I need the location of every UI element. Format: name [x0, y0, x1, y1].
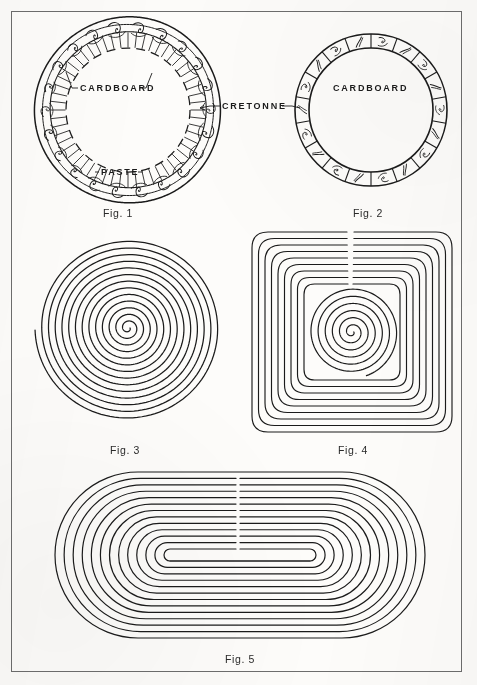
callout-cardboard-fig1: CARDBOARD	[80, 83, 155, 93]
fig5-oblong-spiral	[55, 472, 425, 638]
scanned-plate-page: CARDBOARD PASTE CARDBOARD CRETONNE Fig. …	[0, 0, 477, 685]
figure-label-fig4: Fig. 4	[338, 444, 368, 456]
figure-label-fig5: Fig. 5	[225, 653, 255, 665]
callout-cardboard-fig2: CARDBOARD	[333, 83, 408, 93]
figure-label-fig3: Fig. 3	[110, 444, 140, 456]
fig2-segmented-ring	[295, 34, 447, 186]
callout-cretonne: CRETONNE	[222, 101, 287, 111]
figure-label-fig1: Fig. 1	[103, 207, 133, 219]
callout-paste-fig1: PASTE	[101, 167, 139, 177]
fig4-square-spiral	[252, 232, 452, 432]
fig3-round-spiral	[35, 241, 218, 418]
figure-label-fig2: Fig. 2	[353, 207, 383, 219]
